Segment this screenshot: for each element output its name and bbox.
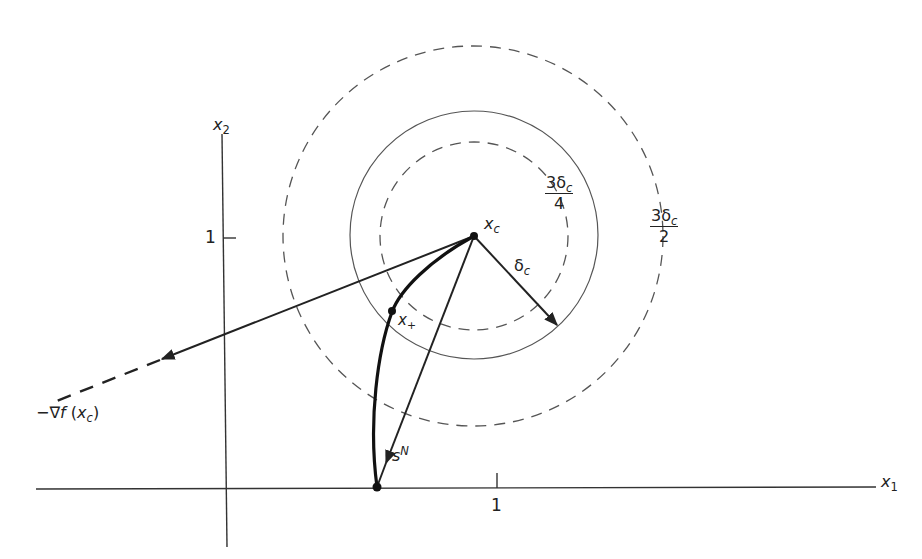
outer-radius-numerator: 3δc: [650, 208, 678, 227]
y-axis-label-sub: 2: [222, 123, 229, 137]
inner-radius-denominator: 4: [554, 194, 564, 212]
y-tick-label: 1: [205, 229, 216, 246]
delta-label-sub: c: [524, 264, 530, 278]
gradient-vector-extension: [54, 360, 160, 402]
newton-label-sup: N: [400, 444, 409, 458]
y-axis-label: x2: [213, 117, 230, 133]
xplus-label-sub: +: [407, 319, 416, 332]
outer-num-text: 3δ: [651, 206, 671, 225]
delta-label-main: δ: [514, 256, 524, 275]
gradient-prefix: −∇: [36, 403, 60, 422]
x-tick-label: 1: [491, 497, 502, 514]
inner-radius-label: 3δc 4: [545, 175, 573, 212]
outer-num-sub: c: [671, 214, 677, 228]
x-axis: [36, 487, 876, 489]
xc-label: xc: [484, 216, 500, 232]
gradient-x: x: [77, 403, 86, 422]
gradient-sub: c: [87, 411, 93, 425]
xc-label-sub: c: [493, 222, 499, 236]
newton-step-vector: [386, 236, 474, 463]
xc-point: [470, 232, 478, 240]
y-axis: [222, 134, 227, 547]
inner-radius-numerator: 3δc: [545, 175, 573, 194]
outer-radius-label: 3δc 2: [650, 208, 678, 245]
newton-point: [373, 483, 382, 492]
x-axis-label-sub: 1: [890, 480, 897, 494]
delta-label: δc: [514, 258, 530, 274]
gradient-label: −∇f (xc): [36, 405, 99, 421]
x-axis-label: x1: [881, 474, 898, 490]
inner-num-sub: c: [566, 181, 572, 195]
gradient-open-paren: (: [66, 403, 77, 422]
gradient-close-paren: ): [93, 403, 99, 422]
outer-radius-denominator: 2: [659, 227, 669, 245]
xplus-label: x+: [398, 313, 416, 328]
dogleg-trust-region-diagram: [0, 0, 922, 559]
gradient-vector: [162, 236, 474, 359]
outer-radius-fraction: 3δc 2: [650, 208, 678, 245]
inner-radius-fraction: 3δc 4: [545, 175, 573, 212]
xplus-label-main: x: [398, 311, 407, 329]
inner-num-text: 3δ: [546, 173, 566, 192]
delta-radius-vector: [474, 236, 557, 325]
newton-step-label: sN: [392, 448, 409, 464]
xplus-point: [388, 307, 396, 315]
